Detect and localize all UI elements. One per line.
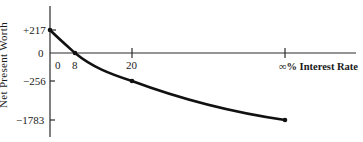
y-tick-label-0: 0 [38,48,44,59]
x-tick-label-0: 0 [55,60,61,71]
x-tick-label-20: 20 [126,60,137,71]
point-inf [283,118,288,123]
point-0 [48,28,53,33]
npw-curve [50,30,285,120]
point-8 [73,51,78,56]
y-tick-label-m256: −256 [23,76,46,87]
x-tick-label-8: 8 [72,60,78,71]
point-20 [130,79,135,84]
x-axis-label: ∞% Interest Rate [279,61,358,72]
y-tick-label-m1783: −1783 [16,115,44,126]
y-axis-label: Net Present Worth [0,22,9,108]
y-tick-label-217: +217 [23,25,46,36]
